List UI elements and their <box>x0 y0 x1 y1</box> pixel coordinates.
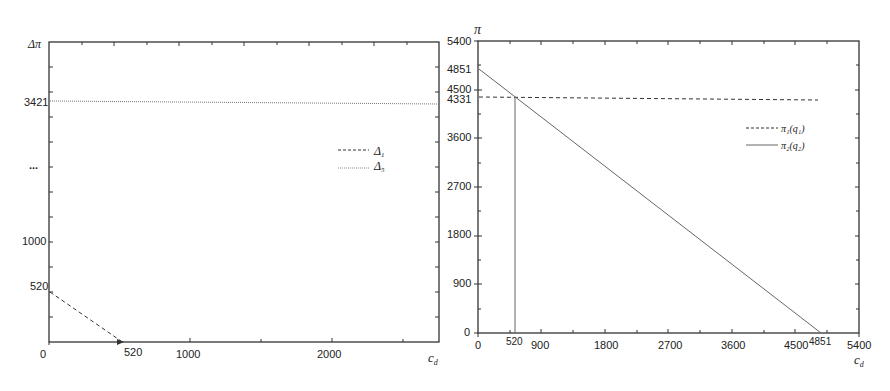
right-plot-frame <box>478 41 859 333</box>
right-xtick-5400: 5400 <box>847 339 871 351</box>
right-xtick-0: 0 <box>475 339 481 351</box>
right-ytick-0: 0 <box>464 326 470 338</box>
left-ytick-1000: 1000 <box>22 235 46 247</box>
right-y-axis-label: π <box>474 22 482 37</box>
right-series-pi2 <box>479 69 821 333</box>
left-chart: Δπ 3421 ... 1000 520 0 520 1000 2000 cd … <box>0 0 445 391</box>
right-xtick-4500: 4500 <box>784 339 808 351</box>
left-xtick-2000: 2000 <box>317 348 341 360</box>
right-chart: π 5400 4851 4500 4331 3600 2700 1800 900… <box>445 0 890 391</box>
right-xtick-4851: 4851 <box>809 336 832 347</box>
right-xtick-900: 900 <box>531 339 549 351</box>
left-series-delta1 <box>50 292 121 341</box>
right-ytick-5400: 5400 <box>447 35 471 47</box>
svg-text:Δ1: Δ1 <box>373 144 385 159</box>
left-ytick-3421: 3421 <box>24 96 48 108</box>
left-x-axis-label: cd <box>428 350 439 367</box>
right-ytick-1800: 1800 <box>447 228 471 240</box>
svg-text:π₂(q₂): π₂(q₂) <box>781 140 805 152</box>
right-ytick-3600: 3600 <box>447 131 471 143</box>
right-xtick-1800: 1800 <box>594 339 618 351</box>
svg-text:Δ5: Δ5 <box>373 159 385 174</box>
left-ytick-520: 520 <box>30 280 48 292</box>
right-series-pi1 <box>479 97 818 100</box>
right-x-ticks <box>478 41 859 337</box>
svg-text:π₁(q₁): π₁(q₁) <box>781 123 805 135</box>
right-ytick-900: 900 <box>453 277 471 289</box>
left-legend: Δ1 Δ5 <box>338 144 385 174</box>
right-x-axis-label: cd <box>854 352 865 369</box>
right-legend: π₁(q₁) π₂(q₂) <box>746 123 805 152</box>
left-series-delta5 <box>50 101 439 104</box>
left-x-arrow-marker <box>117 339 124 345</box>
right-ytick-4331: 4331 <box>447 93 471 105</box>
left-x-ticks <box>49 42 407 345</box>
right-xtick-2700: 2700 <box>658 339 682 351</box>
left-ytick-dots: ... <box>29 159 38 171</box>
right-ytick-2700: 2700 <box>447 180 471 192</box>
left-xtick-520: 520 <box>124 346 142 358</box>
left-xtick-1000: 1000 <box>176 348 200 360</box>
right-y-ticks <box>474 41 859 333</box>
left-xtick-0: 0 <box>40 348 46 360</box>
left-y-ticks <box>49 67 439 317</box>
right-xtick-520: 520 <box>506 336 523 347</box>
right-ytick-4851: 4851 <box>447 63 471 75</box>
right-xtick-3600: 3600 <box>721 339 745 351</box>
left-y-axis-label: Δπ <box>27 37 42 51</box>
left-plot-frame <box>49 42 439 342</box>
